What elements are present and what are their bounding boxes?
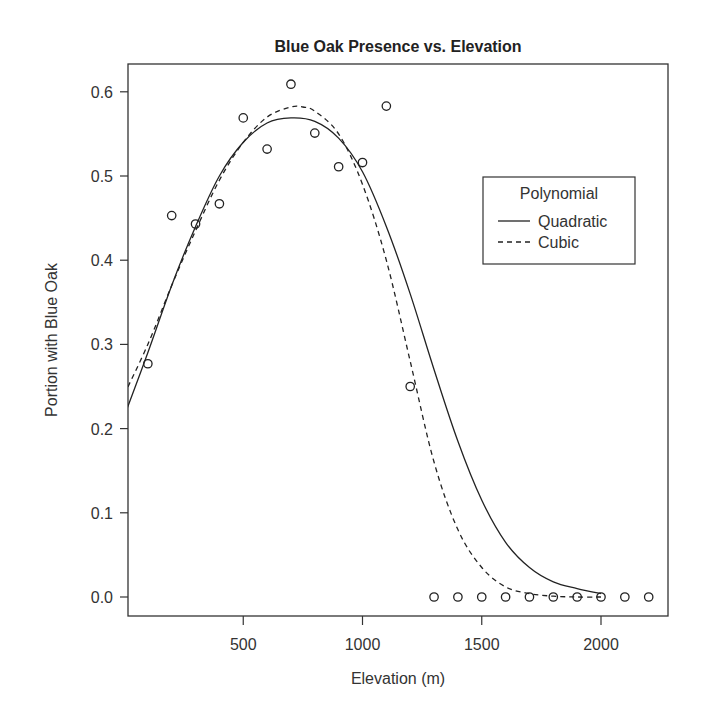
data-point <box>501 593 509 601</box>
x-tick-label: 1500 <box>464 636 500 653</box>
data-point <box>311 129 319 137</box>
y-tick-label: 0.4 <box>91 252 113 269</box>
data-point <box>168 211 176 219</box>
data-point <box>645 593 653 601</box>
y-tick-label: 0.2 <box>91 421 113 438</box>
chart-canvas: Blue Oak Presence vs. Elevation 0.00.10.… <box>0 0 704 722</box>
chart-title: Blue Oak Presence vs. Elevation <box>274 38 521 55</box>
y-tick-label: 0.5 <box>91 168 113 185</box>
data-point <box>144 360 152 368</box>
data-point <box>549 593 557 601</box>
legend-label-quadratic: Quadratic <box>538 213 607 230</box>
legend: Polynomial Quadratic Cubic <box>483 177 635 264</box>
y-tick-label: 0.1 <box>91 505 113 522</box>
data-point <box>382 102 390 110</box>
data-point <box>621 593 629 601</box>
data-point <box>263 145 271 153</box>
data-point <box>239 114 247 122</box>
y-tick-label: 0.3 <box>91 336 113 353</box>
data-point <box>215 200 223 208</box>
data-point <box>525 593 533 601</box>
data-points <box>144 80 653 601</box>
y-tick-label: 0.6 <box>91 84 113 101</box>
x-tick-label: 2000 <box>583 636 619 653</box>
y-axis-label: Portion with Blue Oak <box>43 262 60 417</box>
x-tick-label: 500 <box>230 636 257 653</box>
legend-label-cubic: Cubic <box>538 234 579 251</box>
data-point <box>406 382 414 390</box>
y-tick-label: 0.0 <box>91 589 113 606</box>
data-point <box>358 158 366 166</box>
data-point <box>454 593 462 601</box>
data-point <box>334 163 342 171</box>
data-point <box>430 593 438 601</box>
plot-frame <box>128 64 668 616</box>
legend-title: Polynomial <box>520 185 598 202</box>
y-axis: 0.00.10.20.30.40.50.6 <box>91 84 128 606</box>
x-axis: 500100015002000 <box>230 616 619 653</box>
data-point <box>478 593 486 601</box>
x-axis-label: Elevation (m) <box>351 670 445 687</box>
data-point <box>287 80 295 88</box>
x-tick-label: 1000 <box>345 636 381 653</box>
